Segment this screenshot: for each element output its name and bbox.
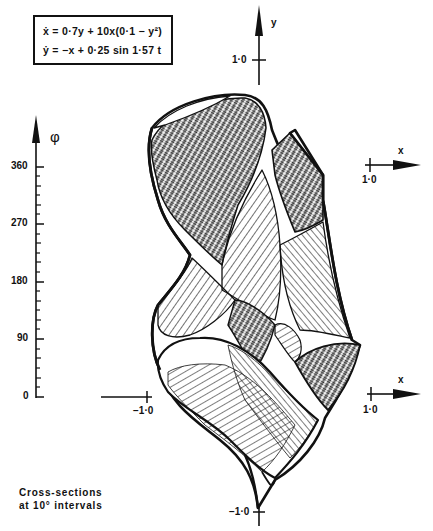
phi-tick-360: 360 [11, 160, 28, 171]
y-axis-bottom [253, 507, 265, 526]
y-axis-top [252, 5, 266, 85]
phi-tick-270: 270 [11, 217, 28, 228]
x-axis-bottom-label: x [398, 374, 404, 385]
phi-tick-180: 180 [11, 275, 28, 286]
phi-axis [32, 115, 44, 398]
x-axis-top-label: x [398, 145, 404, 156]
x-axis-top [365, 158, 421, 172]
y-bottom-tick-label: −1·0 [229, 506, 249, 517]
caption-line-2: at 10° intervals [19, 499, 103, 512]
phi-axis-label: φ [50, 128, 60, 145]
y-top-tick-label: 1·0 [232, 54, 246, 65]
x-bottom-left-tick-label: −1·0 [133, 405, 153, 416]
surface-diagram [0, 0, 433, 531]
caption-line-1: Cross-sections [19, 486, 103, 499]
phi-tick-90: 90 [17, 332, 28, 343]
x-top-tick-label: 1·0 [362, 174, 376, 185]
caption: Cross-sections at 10° intervals [19, 486, 103, 512]
integral-surface [149, 95, 360, 508]
y-axis-label: y [271, 17, 277, 28]
x-bottom-tick-label: 1·0 [363, 404, 377, 415]
phi-tick-0: 0 [23, 390, 29, 401]
